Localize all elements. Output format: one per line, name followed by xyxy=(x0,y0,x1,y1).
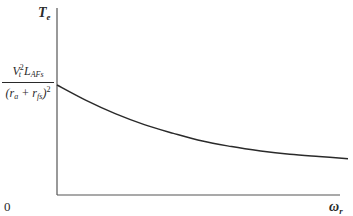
y-axis-label: Te xyxy=(38,6,51,22)
den-plus: + r xyxy=(18,86,37,100)
origin-label: 0 xyxy=(4,200,11,213)
y-intercept-numerator: V2t LAFs xyxy=(2,64,54,83)
y-axis-symbol: T xyxy=(38,5,47,20)
torque-speed-curve xyxy=(57,85,348,159)
x-axis-label: ωr xyxy=(329,200,343,216)
y-intercept-denominator: (ra + rfs)2 xyxy=(2,83,54,101)
den-open: (r xyxy=(6,86,15,100)
x-axis-subscript: r xyxy=(339,206,343,216)
l-symbol: L xyxy=(24,64,31,78)
chart-canvas xyxy=(0,0,353,216)
l-subscript: AFs xyxy=(31,70,44,79)
v-subscript: t xyxy=(19,70,21,79)
x-axis-symbol: ω xyxy=(329,199,339,214)
den-exponent: 2 xyxy=(46,85,50,94)
y-axis-subscript: e xyxy=(47,12,51,22)
y-intercept-label: V2t LAFs (ra + rfs)2 xyxy=(2,64,54,101)
